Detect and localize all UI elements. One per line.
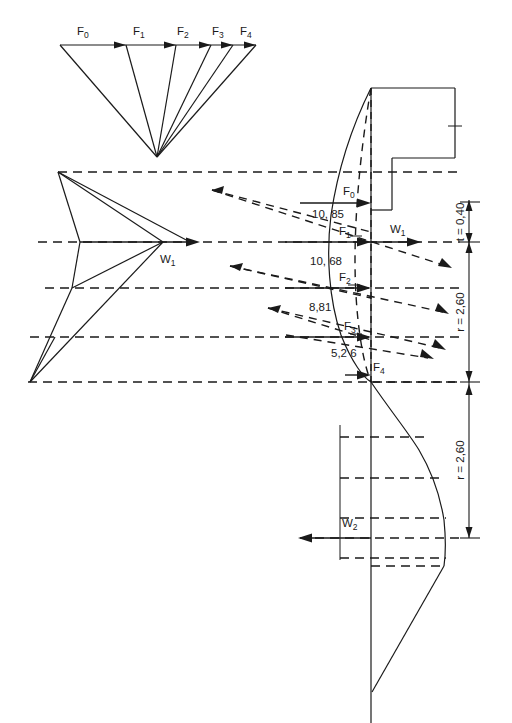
dimension-label-t: t = 0,40: [454, 203, 466, 242]
dimension-label-r-lower: r = 2,60: [454, 440, 466, 479]
dimension-label-r-upper: r = 2,60: [454, 292, 466, 331]
canvas-background: [0, 0, 512, 723]
value-label-2: 8,81: [309, 301, 331, 313]
figure-root: F0 F1 F2 F3 F4: [0, 0, 512, 723]
value-label-3: 5,2 6: [331, 347, 357, 359]
value-label-1: 10, 68: [310, 255, 342, 267]
value-label-0: 10, 85: [312, 208, 344, 220]
engineering-diagram: F0 F1 F2 F3 F4: [0, 0, 512, 723]
